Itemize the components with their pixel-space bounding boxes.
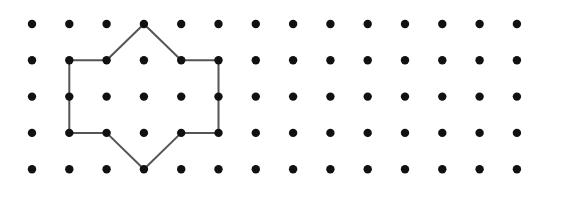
grid-dot xyxy=(214,56,222,64)
grid-dot xyxy=(177,20,185,28)
grid-dot xyxy=(364,20,372,28)
grid-dot xyxy=(475,92,483,100)
grid-dot xyxy=(140,165,148,173)
grid-dot xyxy=(140,20,148,28)
grid-dot xyxy=(513,20,521,28)
grid-dot xyxy=(289,56,297,64)
grid-dot xyxy=(289,129,297,137)
grid-dot xyxy=(513,92,521,100)
grid-dot xyxy=(65,129,73,137)
grid-dot xyxy=(65,20,73,28)
grid-dot xyxy=(475,129,483,137)
grid-dot xyxy=(252,129,260,137)
grid-dot xyxy=(28,165,36,173)
grid-dot xyxy=(513,56,521,64)
grid-dot xyxy=(177,92,185,100)
grid-dot xyxy=(475,20,483,28)
grid-dot xyxy=(364,56,372,64)
grid-dot xyxy=(102,20,110,28)
grid-dot xyxy=(401,92,409,100)
grid-dot xyxy=(28,56,36,64)
grid-dot xyxy=(252,165,260,173)
grid-dot xyxy=(28,20,36,28)
grid-dot xyxy=(252,20,260,28)
grid-dot xyxy=(401,56,409,64)
grid-dot xyxy=(289,165,297,173)
grid-dot xyxy=(513,165,521,173)
grid-dot xyxy=(364,129,372,137)
grid-dots xyxy=(28,20,521,174)
grid-dot xyxy=(326,165,334,173)
grid-dot xyxy=(214,20,222,28)
grid-dot xyxy=(513,129,521,137)
grid-dot xyxy=(102,129,110,137)
grid-dot xyxy=(102,165,110,173)
grid-dot xyxy=(326,56,334,64)
grid-dot xyxy=(140,129,148,137)
grid-dot xyxy=(214,129,222,137)
dot-grid-diagram xyxy=(0,0,562,198)
grid-dot xyxy=(438,56,446,64)
grid-dot xyxy=(475,56,483,64)
grid-dot xyxy=(364,165,372,173)
grid-dot xyxy=(326,92,334,100)
grid-dot xyxy=(475,165,483,173)
grid-dot xyxy=(214,165,222,173)
grid-dot xyxy=(289,20,297,28)
grid-dot xyxy=(28,129,36,137)
grid-dot xyxy=(65,56,73,64)
grid-dot xyxy=(140,56,148,64)
grid-dot xyxy=(438,129,446,137)
grid-dot xyxy=(326,129,334,137)
grid-dot xyxy=(326,20,334,28)
grid-dot xyxy=(177,165,185,173)
grid-dot xyxy=(177,129,185,137)
grid-dot xyxy=(102,92,110,100)
grid-dot xyxy=(401,129,409,137)
grid-dot xyxy=(438,165,446,173)
dot-grid-canvas xyxy=(0,0,562,198)
grid-dot xyxy=(438,20,446,28)
grid-dot xyxy=(252,56,260,64)
grid-dot xyxy=(401,20,409,28)
grid-dot xyxy=(65,165,73,173)
grid-dot xyxy=(438,92,446,100)
grid-dot xyxy=(177,56,185,64)
grid-dot xyxy=(65,92,73,100)
grid-dot xyxy=(364,92,372,100)
grid-dot xyxy=(214,92,222,100)
grid-dot xyxy=(401,165,409,173)
grid-dot xyxy=(140,92,148,100)
grid-dot xyxy=(289,92,297,100)
grid-dot xyxy=(102,56,110,64)
grid-dot xyxy=(28,92,36,100)
grid-dot xyxy=(252,92,260,100)
